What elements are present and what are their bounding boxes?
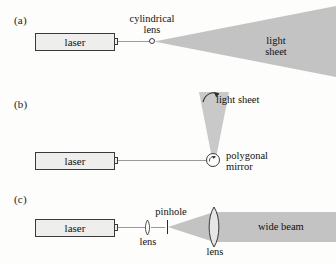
wide-beam-label: wide beam — [258, 221, 304, 232]
laser-box-c: laser — [35, 219, 115, 237]
lens-label-c1: lens — [128, 236, 168, 247]
beam-line-c — [118, 227, 147, 228]
laser-box-a-label: laser — [65, 36, 86, 48]
panel-label-b: (b) — [14, 98, 27, 110]
laser-sheet-diagram: (a) laser cylindrical lens light sheet (… — [0, 0, 336, 264]
beam-line-b — [118, 160, 211, 161]
laser-box-a: laser — [35, 33, 115, 51]
panel-label-a: (a) — [14, 14, 27, 26]
laser-box-b: laser — [35, 152, 115, 170]
biconvex-lens-icon-large — [206, 207, 222, 247]
mirror-rotation-arrow-icon — [208, 155, 219, 165]
light-sheet-label-a: light sheet — [252, 35, 300, 58]
laser-box-c-label: laser — [65, 222, 86, 234]
polygonal-mirror-label: polygonal mirror — [226, 150, 300, 173]
light-sheet-wedge-a — [154, 6, 336, 78]
beam-line-c2 — [151, 227, 165, 228]
lens-label-c3: lens — [194, 246, 236, 257]
beam-line-a — [118, 41, 151, 42]
panel-label-c: (c) — [14, 193, 27, 205]
laser-box-b-label: laser — [65, 155, 86, 167]
light-sheet-label-b: light sheet — [216, 94, 296, 105]
biconvex-lens-icon-small — [144, 220, 151, 235]
